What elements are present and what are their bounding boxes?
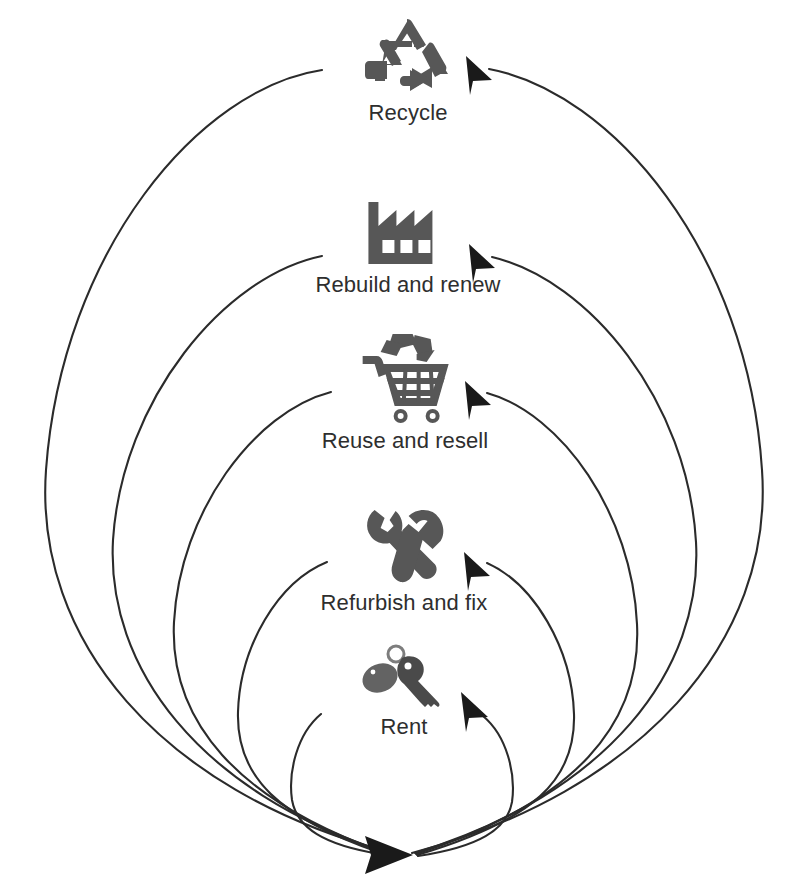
node-rent[interactable]: Rent bbox=[354, 644, 454, 740]
node-reuse-and-resell-label: Reuse and resell bbox=[322, 428, 489, 454]
node-rebuild-and-renew[interactable]: Rebuild and renew bbox=[315, 198, 500, 298]
tools-icon bbox=[359, 506, 449, 586]
arrowhead-recycle bbox=[466, 56, 492, 95]
loop-recycle-right-branch bbox=[412, 69, 763, 853]
node-refurbish-and-fix-label: Refurbish and fix bbox=[321, 590, 488, 616]
node-recycle[interactable]: Recycle bbox=[356, 18, 460, 126]
node-rebuild-and-renew-label: Rebuild and renew bbox=[315, 272, 500, 298]
node-rent-label: Rent bbox=[381, 714, 428, 740]
loop-reuse-right-branch bbox=[416, 393, 637, 854]
shopping-cart-icon bbox=[357, 330, 453, 424]
keys-icon bbox=[354, 644, 454, 710]
factory-icon bbox=[362, 198, 454, 268]
loop-reuse-left-branch bbox=[174, 392, 382, 852]
loop-recycle-left-branch bbox=[45, 70, 385, 851]
arrowhead-rent bbox=[461, 692, 488, 732]
arrowhead-hub bbox=[365, 836, 413, 874]
node-refurbish-and-fix[interactable]: Refurbish and fix bbox=[321, 506, 488, 616]
node-recycle-label: Recycle bbox=[369, 100, 448, 126]
recycle-icon bbox=[356, 18, 460, 96]
node-reuse-and-resell[interactable]: Reuse and resell bbox=[322, 330, 489, 454]
circular-economy-diagram: Recycle Rebuild and renew bbox=[0, 0, 799, 882]
